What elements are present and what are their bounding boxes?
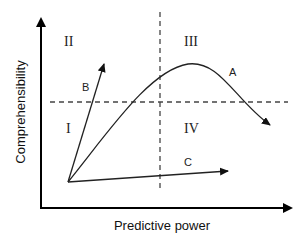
curve-label-a: A	[229, 66, 237, 78]
arrow-c	[68, 171, 228, 182]
quadrant-label-i: I	[66, 121, 71, 136]
curve-label-b: B	[82, 81, 89, 93]
x-axis-label: Predictive power	[114, 218, 211, 233]
comprehensibility-predictive-power-diagram: II III I IV A B C Predictive power Compr…	[0, 0, 308, 240]
curve-label-c: C	[184, 156, 192, 168]
quadrant-label-ii: II	[64, 34, 74, 49]
y-axis-label: Comprehensibility	[13, 60, 28, 164]
quadrant-label-iii: III	[184, 34, 198, 49]
quadrant-label-iv: IV	[184, 121, 199, 136]
